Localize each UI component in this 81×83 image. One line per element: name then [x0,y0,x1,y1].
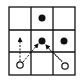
circle-2-0 [17,62,23,68]
grid-diagram [0,0,81,83]
dot-1-1 [39,38,46,45]
open-circles [17,62,68,69]
dot-0-1 [39,15,46,22]
circle-2-2 [62,63,68,69]
dot-1-2 [61,38,68,45]
arrow-wavy [46,45,62,62]
